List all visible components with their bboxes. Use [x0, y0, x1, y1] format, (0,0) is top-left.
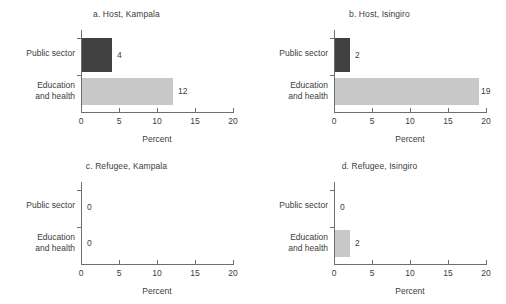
bar-value-public-sector: 0	[340, 202, 345, 212]
category-label-education-and-health: Education and health	[288, 232, 328, 253]
x-tick-label-20: 20	[228, 268, 237, 278]
x-tick-label-5: 5	[370, 268, 375, 278]
x-tick-label-20: 20	[228, 116, 237, 126]
plot-area: 0 5 10 15 20 Percent Public sector Educa…	[0, 0, 253, 152]
x-tick-label-10: 10	[152, 116, 161, 126]
x-tick-label-0: 0	[332, 268, 337, 278]
y-tick-1	[330, 75, 335, 76]
x-tick-label-15: 15	[190, 116, 199, 126]
category-label-public-sector: Public sector	[279, 48, 328, 59]
figure-panel-grid: a. Host, Kampala 0 5 10 15 20 Percent Pu…	[0, 0, 506, 304]
category-label-public-sector: Public sector	[279, 200, 328, 211]
x-tick-10	[157, 260, 158, 265]
bar-education-and-health	[335, 230, 350, 257]
panel-b: b. Host, Isingiro 0 5 10 15 20 Percent P…	[253, 0, 506, 152]
x-tick-label-5: 5	[370, 116, 375, 126]
bar-value-public-sector: 0	[87, 202, 92, 212]
y-tick-1	[77, 227, 82, 228]
x-tick-label-0: 0	[79, 268, 84, 278]
x-tick-0	[81, 260, 82, 265]
bar-public-sector	[335, 38, 350, 72]
x-tick-10	[410, 108, 411, 113]
bar-value-education-and-health: 19	[481, 86, 490, 96]
x-tick-20	[233, 260, 234, 265]
x-tick-15	[195, 260, 196, 265]
x-tick-0	[81, 108, 82, 113]
x-tick-label-15: 15	[443, 116, 452, 126]
bar-value-public-sector: 4	[117, 50, 122, 60]
y-tick-0	[330, 190, 335, 191]
x-tick-20	[486, 108, 487, 113]
bar-value-education-and-health: 0	[87, 238, 92, 248]
x-tick-5	[119, 260, 120, 265]
x-tick-10	[410, 260, 411, 265]
x-tick-label-10: 10	[152, 268, 161, 278]
x-axis-title: Percent	[334, 286, 486, 296]
bar-education-and-health	[335, 78, 479, 105]
x-tick-label-5: 5	[117, 116, 122, 126]
panel-c: c. Refugee, Kampala 0 5 10 15 20 Percent…	[0, 152, 253, 304]
bar-public-sector	[82, 38, 112, 72]
x-axis-title: Percent	[81, 134, 233, 144]
category-label-education-and-health: Education and health	[35, 80, 75, 101]
y-tick-1	[77, 75, 82, 76]
category-label-public-sector: Public sector	[26, 200, 75, 211]
x-tick-20	[233, 108, 234, 113]
x-tick-label-5: 5	[117, 268, 122, 278]
x-axis-title: Percent	[334, 134, 486, 144]
y-tick-1	[330, 227, 335, 228]
category-label-public-sector: Public sector	[26, 48, 75, 59]
x-tick-0	[334, 108, 335, 113]
bar-value-education-and-health: 12	[178, 86, 187, 96]
x-tick-label-15: 15	[443, 268, 452, 278]
plot-area: 0 5 10 15 20 Percent Public sector Educa…	[253, 0, 506, 152]
x-tick-label-20: 20	[481, 116, 490, 126]
x-tick-label-0: 0	[79, 116, 84, 126]
x-tick-5	[372, 260, 373, 265]
plot-area: 0 5 10 15 20 Percent Public sector Educa…	[0, 152, 253, 304]
x-tick-label-0: 0	[332, 116, 337, 126]
bar-value-public-sector: 2	[355, 50, 360, 60]
panel-d: d. Refugee, Isingiro 0 5 10 15 20 Percen…	[253, 152, 506, 304]
x-tick-10	[157, 108, 158, 113]
x-tick-15	[448, 108, 449, 113]
x-axis-title: Percent	[81, 286, 233, 296]
x-tick-5	[372, 108, 373, 113]
category-label-education-and-health: Education and health	[35, 232, 75, 253]
y-axis-line	[81, 182, 82, 264]
category-label-education-and-health: Education and health	[288, 80, 328, 101]
bar-value-education-and-health: 2	[355, 238, 360, 248]
panel-a: a. Host, Kampala 0 5 10 15 20 Percent Pu…	[0, 0, 253, 152]
bar-education-and-health	[82, 78, 173, 105]
x-tick-0	[334, 260, 335, 265]
x-tick-label-15: 15	[190, 268, 199, 278]
x-tick-label-20: 20	[481, 268, 490, 278]
x-tick-label-10: 10	[405, 116, 414, 126]
x-tick-20	[486, 260, 487, 265]
plot-area: 0 5 10 15 20 Percent Public sector Educa…	[253, 152, 506, 304]
x-tick-5	[119, 108, 120, 113]
x-tick-15	[195, 108, 196, 113]
y-tick-0	[77, 190, 82, 191]
x-tick-15	[448, 260, 449, 265]
x-tick-label-10: 10	[405, 268, 414, 278]
